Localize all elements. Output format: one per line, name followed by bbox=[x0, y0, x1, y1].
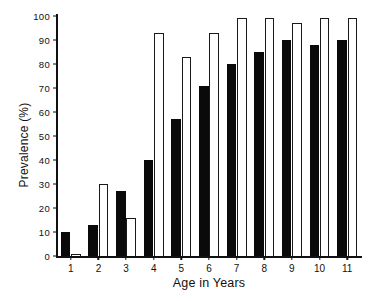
bar-group: 2 bbox=[85, 16, 113, 256]
x-axis-tick-label: 8 bbox=[261, 256, 267, 274]
bar-group: 9 bbox=[278, 16, 306, 256]
bar-white-age-11 bbox=[348, 18, 358, 256]
bar-white-age-7 bbox=[237, 18, 247, 256]
y-axis-tick: 10 bbox=[39, 227, 57, 238]
bar-group: 1 bbox=[57, 16, 85, 256]
bar-black-age-8 bbox=[254, 52, 264, 256]
y-axis-tick-label: 50 bbox=[39, 131, 50, 142]
y-axis-tick-label: 80 bbox=[39, 59, 50, 70]
bar-white-age-3 bbox=[126, 218, 136, 256]
plot-area: 01020304050607080901001234567891011 bbox=[57, 16, 361, 256]
bar-black-age-2 bbox=[88, 225, 98, 256]
x-axis-tick-label: 10 bbox=[314, 256, 325, 274]
y-axis-tick: 100 bbox=[33, 11, 57, 22]
x-axis-tick-label: 6 bbox=[206, 256, 212, 274]
bar-group: 7 bbox=[223, 16, 251, 256]
y-axis-tick-label: 70 bbox=[39, 83, 50, 94]
y-axis-label: Prevalence (%) bbox=[17, 75, 31, 215]
bar-white-age-6 bbox=[209, 33, 219, 256]
x-axis-tick-label: 11 bbox=[342, 256, 352, 274]
x-axis-label: Age in Years bbox=[57, 276, 361, 290]
y-axis-tick: 70 bbox=[39, 83, 57, 94]
bar-black-age-6 bbox=[199, 86, 209, 256]
x-axis-tick-label: 1 bbox=[68, 256, 74, 274]
bar-white-age-5 bbox=[182, 57, 192, 256]
bar-black-age-5 bbox=[171, 119, 181, 256]
bar-group: 5 bbox=[168, 16, 196, 256]
bar-black-age-10 bbox=[310, 45, 320, 256]
y-axis-tick-label: 30 bbox=[39, 179, 50, 190]
bar-group: 3 bbox=[112, 16, 140, 256]
y-axis-tick: 20 bbox=[39, 203, 57, 214]
bar-white-age-4 bbox=[154, 33, 164, 256]
bar-group: 11 bbox=[333, 16, 361, 256]
x-axis-tick-label: 4 bbox=[151, 256, 157, 274]
x-axis-tick-label: 3 bbox=[123, 256, 129, 274]
bar-white-age-8 bbox=[265, 18, 275, 256]
y-axis-tick: 40 bbox=[39, 155, 57, 166]
y-axis-tick: 0 bbox=[44, 251, 57, 262]
bar-black-age-4 bbox=[144, 160, 154, 256]
bar-white-age-9 bbox=[292, 23, 302, 256]
prevalence-by-age-bar-chart: Prevalence (%) 0102030405060708090100123… bbox=[0, 0, 375, 301]
x-axis-tick-label: 2 bbox=[96, 256, 102, 274]
y-axis-tick-label: 100 bbox=[33, 11, 50, 22]
bar-group: 10 bbox=[306, 16, 334, 256]
y-axis-tick-label: 40 bbox=[39, 155, 50, 166]
y-axis-tick: 60 bbox=[39, 107, 57, 118]
y-axis-tick: 30 bbox=[39, 179, 57, 190]
bar-group: 4 bbox=[140, 16, 168, 256]
x-axis-tick-label: 5 bbox=[179, 256, 185, 274]
bar-white-age-10 bbox=[320, 18, 330, 256]
bar-white-age-1 bbox=[71, 254, 81, 256]
bar-white-age-2 bbox=[99, 184, 109, 256]
bar-black-age-11 bbox=[337, 40, 347, 256]
bar-group: 8 bbox=[250, 16, 278, 256]
bar-black-age-1 bbox=[61, 232, 71, 256]
y-axis-tick-label: 90 bbox=[39, 35, 50, 46]
bar-black-age-3 bbox=[116, 191, 126, 256]
y-axis-tick-label: 20 bbox=[39, 203, 50, 214]
y-axis-tick-label: 60 bbox=[39, 107, 50, 118]
y-axis-tick: 80 bbox=[39, 59, 57, 70]
y-axis-tick: 50 bbox=[39, 131, 57, 142]
x-axis-tick-label: 7 bbox=[234, 256, 240, 274]
y-axis-tick-label: 0 bbox=[44, 251, 50, 262]
bar-group: 6 bbox=[195, 16, 223, 256]
x-axis-tick-label: 9 bbox=[289, 256, 295, 274]
bar-black-age-9 bbox=[282, 40, 292, 256]
y-axis-tick-label: 10 bbox=[39, 227, 50, 238]
y-axis-tick: 90 bbox=[39, 35, 57, 46]
bar-black-age-7 bbox=[227, 64, 237, 256]
